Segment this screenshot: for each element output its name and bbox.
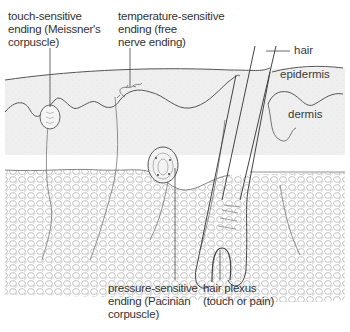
label-free-nerve-ending: temperature-sensitive ending (free nerve… <box>118 10 224 49</box>
label-epidermis: epidermis <box>280 68 330 80</box>
skin-diagram: touch-sensitive ending (Meissner's corpu… <box>0 0 350 332</box>
label-pacinian: pressure-sensitive ending (Pacinian corp… <box>108 282 198 321</box>
label-dermis: dermis <box>288 108 323 120</box>
pacinian-corpuscle <box>148 147 178 183</box>
label-meissner: touch-sensitive ending (Meissner's corpu… <box>8 10 101 49</box>
label-hair-plexus: hair plexus (touch or pain) <box>203 282 274 308</box>
label-hair: hair <box>294 44 313 56</box>
meissner-corpuscle <box>40 105 60 129</box>
